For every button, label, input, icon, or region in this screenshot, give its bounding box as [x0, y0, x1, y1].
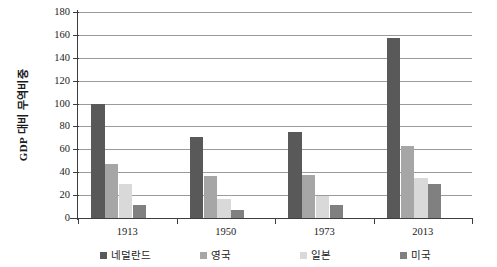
- bar: [119, 184, 132, 218]
- gridline: [78, 104, 472, 105]
- y-tick-label: 180: [42, 7, 70, 17]
- bar: [91, 104, 104, 218]
- bar: [401, 146, 414, 218]
- plot-area: [78, 12, 472, 218]
- gridline: [78, 58, 472, 59]
- legend: 네덜란드영국일본미국: [78, 246, 478, 264]
- gridline: [78, 81, 472, 82]
- legend-label: 네덜란드: [111, 250, 151, 261]
- legend-label: 일본: [311, 250, 331, 261]
- y-axis-tick-labels: 020406080100120140160180: [40, 0, 70, 230]
- x-tick-mark: [78, 219, 79, 224]
- legend-swatch-icon: [300, 252, 307, 259]
- y-tick-mark: [73, 58, 79, 59]
- legend-swatch-icon: [100, 252, 107, 259]
- y-tick-label: 100: [42, 99, 70, 109]
- x-tick-label: 1950: [186, 226, 266, 238]
- y-tick-mark: [73, 104, 79, 105]
- legend-item[interactable]: 네덜란드: [78, 250, 178, 261]
- bar: [414, 178, 427, 218]
- legend-swatch-icon: [400, 252, 407, 259]
- y-tick-label: 120: [42, 76, 70, 86]
- bar: [316, 196, 329, 218]
- y-tick-label: 0: [42, 213, 70, 223]
- bar: [428, 184, 441, 218]
- y-tick-mark: [73, 126, 79, 127]
- legend-label: 미국: [411, 250, 431, 261]
- bar: [217, 199, 230, 218]
- bar: [133, 205, 146, 218]
- legend-swatch-icon: [200, 252, 207, 259]
- legend-item[interactable]: 영국: [178, 250, 278, 261]
- x-tick-label: 1913: [87, 226, 167, 238]
- y-tick-mark: [73, 81, 79, 82]
- y-tick-label: 60: [42, 144, 70, 154]
- x-tick-mark: [275, 219, 276, 224]
- bar-chart: GDP 대비 무역비중 020406080100120140160180 191…: [0, 0, 497, 267]
- bar: [231, 210, 244, 218]
- bar: [190, 137, 203, 218]
- x-tick-label: 2013: [383, 226, 463, 238]
- y-tick-mark: [73, 195, 79, 196]
- bar: [105, 164, 118, 218]
- bar: [387, 38, 400, 218]
- gridline: [78, 35, 472, 36]
- y-tick-label: 80: [42, 121, 70, 131]
- legend-item[interactable]: 미국: [378, 250, 478, 261]
- y-axis-title: GDP 대비 무역비중: [14, 12, 32, 218]
- x-tick-mark: [374, 219, 375, 224]
- gridline: [78, 12, 472, 13]
- y-tick-label: 40: [42, 167, 70, 177]
- y-tick-mark: [73, 149, 79, 150]
- x-tick-mark: [472, 219, 473, 224]
- y-tick-label: 20: [42, 190, 70, 200]
- y-tick-mark: [73, 35, 79, 36]
- y-tick-label: 140: [42, 53, 70, 63]
- bar: [204, 176, 217, 218]
- gridline: [78, 126, 472, 127]
- bar: [288, 132, 301, 218]
- y-tick-label: 160: [42, 30, 70, 40]
- y-tick-mark: [73, 172, 79, 173]
- legend-item[interactable]: 일본: [278, 250, 378, 261]
- bar: [330, 205, 343, 218]
- legend-label: 영국: [211, 250, 231, 261]
- x-axis-line: [70, 218, 473, 219]
- y-tick-mark: [73, 12, 79, 13]
- bar: [302, 175, 315, 218]
- x-tick-label: 1973: [284, 226, 364, 238]
- x-tick-mark: [177, 219, 178, 224]
